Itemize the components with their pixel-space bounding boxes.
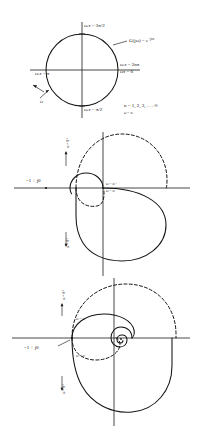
svg-text:ωᵣτ = π/2: ωᵣτ = π/2	[84, 107, 103, 112]
svg-text:ω = ∞: ω = ∞	[124, 111, 133, 115]
inner-dashed-loop	[76, 188, 104, 206]
critical-point-marker	[45, 187, 47, 189]
svg-text:ωᵣτ = 2nπ: ωᵣτ = 2nπ	[120, 62, 140, 67]
svg-text:ω = ∞⁻: ω = ∞⁻	[106, 189, 117, 193]
svg-text:−1 + j0: −1 + j0	[24, 345, 39, 350]
label-omega-zero-upper: ω = 0⁺	[66, 138, 70, 148]
critical-point-leader	[58, 340, 70, 346]
label-omega-inf-plus: ω = ∞⁺	[106, 182, 117, 186]
svg-text:ωᵣτ = π: ωᵣτ = π	[35, 71, 50, 76]
svg-text:ωᵣτ = 3π/2: ωᵣτ = 3π/2	[84, 23, 105, 28]
svg-text:ω = ∞⁻: ω = ∞⁻	[76, 354, 87, 358]
critical-point-marker	[71, 337, 73, 339]
svg-text:n = 1, 2, 3, . . . ∞: n = 1, 2, 3, . . . ∞	[124, 103, 158, 109]
label-omega-inf-minus: ω = ∞⁻	[106, 189, 117, 193]
transfer-function-leader	[113, 41, 127, 45]
label-critical-point: −1 + j0	[24, 345, 39, 350]
omega-arrow-upper	[65, 151, 68, 166]
svg-text:ω = 0⁺: ω = 0⁺	[66, 238, 70, 248]
label-omega-3pi-over-2: ωᵣτ = 3π/2	[84, 23, 105, 28]
outer-dashed-arc	[76, 134, 167, 188]
label-omega-inf-plus: ω = ∞⁺	[76, 317, 87, 321]
label-critical-point: −1 + j0	[26, 178, 41, 183]
figure-root: ωᵣτ = 3π/2 ωᵣτ = π ωᵣτ = 2nπ ωτ = 0 ωᵣτ …	[0, 0, 199, 438]
svg-text:ω = 0⁺: ω = 0⁺	[62, 290, 66, 300]
inner-solid-loop	[70, 173, 103, 194]
panel-converging-spiral: −1 + j0 ω = ∞⁺ ω = ∞⁻ ω = 0⁺ ω	[0, 276, 199, 438]
label-omega-infinity: ω = ∞	[124, 111, 133, 115]
label-omega-zero-upper: ω = 0⁺	[62, 290, 66, 300]
svg-text:G(jω) = e−jωτ: G(jω) = e−jωτ	[129, 37, 155, 44]
outer-solid-spiral	[76, 188, 166, 261]
svg-text:ω = ∞⁺: ω = ∞⁺	[76, 317, 87, 321]
label-omega-pi-over-2: ωᵣτ = π/2	[84, 107, 103, 112]
label-omega-direction: ω	[40, 99, 43, 104]
svg-text:ωτ = 0: ωτ = 0	[120, 69, 134, 74]
svg-text:−1 + j0: −1 + j0	[26, 178, 41, 183]
omega-arrow-lower	[61, 376, 64, 391]
label-transfer-function: G(jω) = e−jωτ	[129, 37, 155, 44]
label-omega-zero-lower: ω = 0⁺	[66, 238, 70, 248]
omega-direction-arrows	[33, 85, 49, 98]
svg-text:ω = 0⁺: ω = 0⁺	[66, 138, 70, 148]
outer-solid-spiral	[72, 338, 172, 412]
label-omega-pi: ωᵣτ = π	[35, 71, 50, 76]
svg-text:ω: ω	[40, 99, 43, 104]
svg-text:ω = ∞⁺: ω = ∞⁺	[106, 182, 117, 186]
label-omega-tau-zero: ωτ = 0	[120, 69, 134, 74]
label-n-values: n = 1, 2, 3, . . . ∞	[124, 103, 158, 109]
outer-dashed-arc	[72, 284, 176, 338]
label-omega-inf-minus: ω = ∞⁻	[76, 354, 87, 358]
panel-spiral-plot: −1 + j0 ω = ∞⁺ ω = ∞⁻ ω = 0⁺ ω	[0, 128, 199, 278]
omega-arrow-upper	[61, 303, 64, 316]
label-omega-2npi: ωᵣτ = 2nπ	[120, 62, 140, 67]
panel-unit-circle: ωᵣτ = 3π/2 ωᵣτ = π ωᵣτ = 2nπ ωτ = 0 ωᵣτ …	[0, 0, 199, 130]
